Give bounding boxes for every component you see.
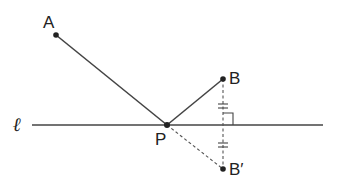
segment-pb-prime xyxy=(167,125,223,169)
label-p: P xyxy=(155,130,166,149)
point-p xyxy=(164,122,170,128)
segment-ap xyxy=(56,35,167,125)
point-b-prime xyxy=(220,166,226,172)
reflection-diagram: A B P B′ ℓ xyxy=(0,0,338,183)
point-b xyxy=(220,76,226,82)
segment-pb xyxy=(167,79,223,125)
right-angle-mark xyxy=(223,113,233,125)
label-line-l: ℓ xyxy=(13,113,21,135)
point-a xyxy=(53,32,59,38)
label-a: A xyxy=(43,13,55,32)
label-b: B xyxy=(229,69,240,88)
label-b-prime: B′ xyxy=(229,160,244,179)
